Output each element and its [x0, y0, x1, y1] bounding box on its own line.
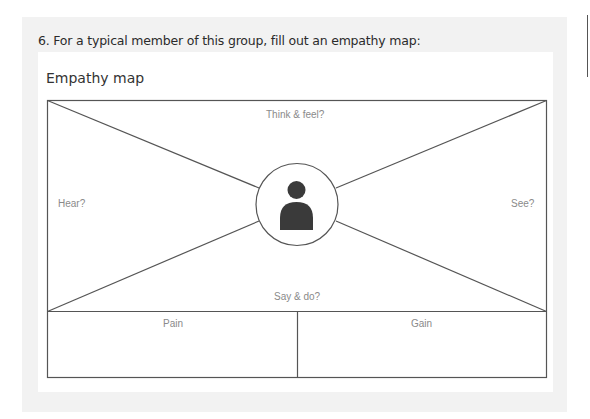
page-edge-divider [587, 15, 588, 77]
label-gain: Gain [411, 318, 432, 329]
label-think-feel: Think & feel? [266, 109, 324, 120]
diagonal-top-right [336, 101, 547, 189]
label-say-do: Say & do? [274, 291, 320, 302]
label-hear: Hear? [58, 198, 85, 209]
diagonal-top-left [48, 101, 260, 189]
diagonal-bottom-right [336, 221, 547, 312]
empathy-map-diagram [0, 0, 590, 419]
diagonal-bottom-left [48, 221, 260, 312]
label-see: See? [511, 198, 534, 209]
label-pain: Pain [163, 318, 183, 329]
